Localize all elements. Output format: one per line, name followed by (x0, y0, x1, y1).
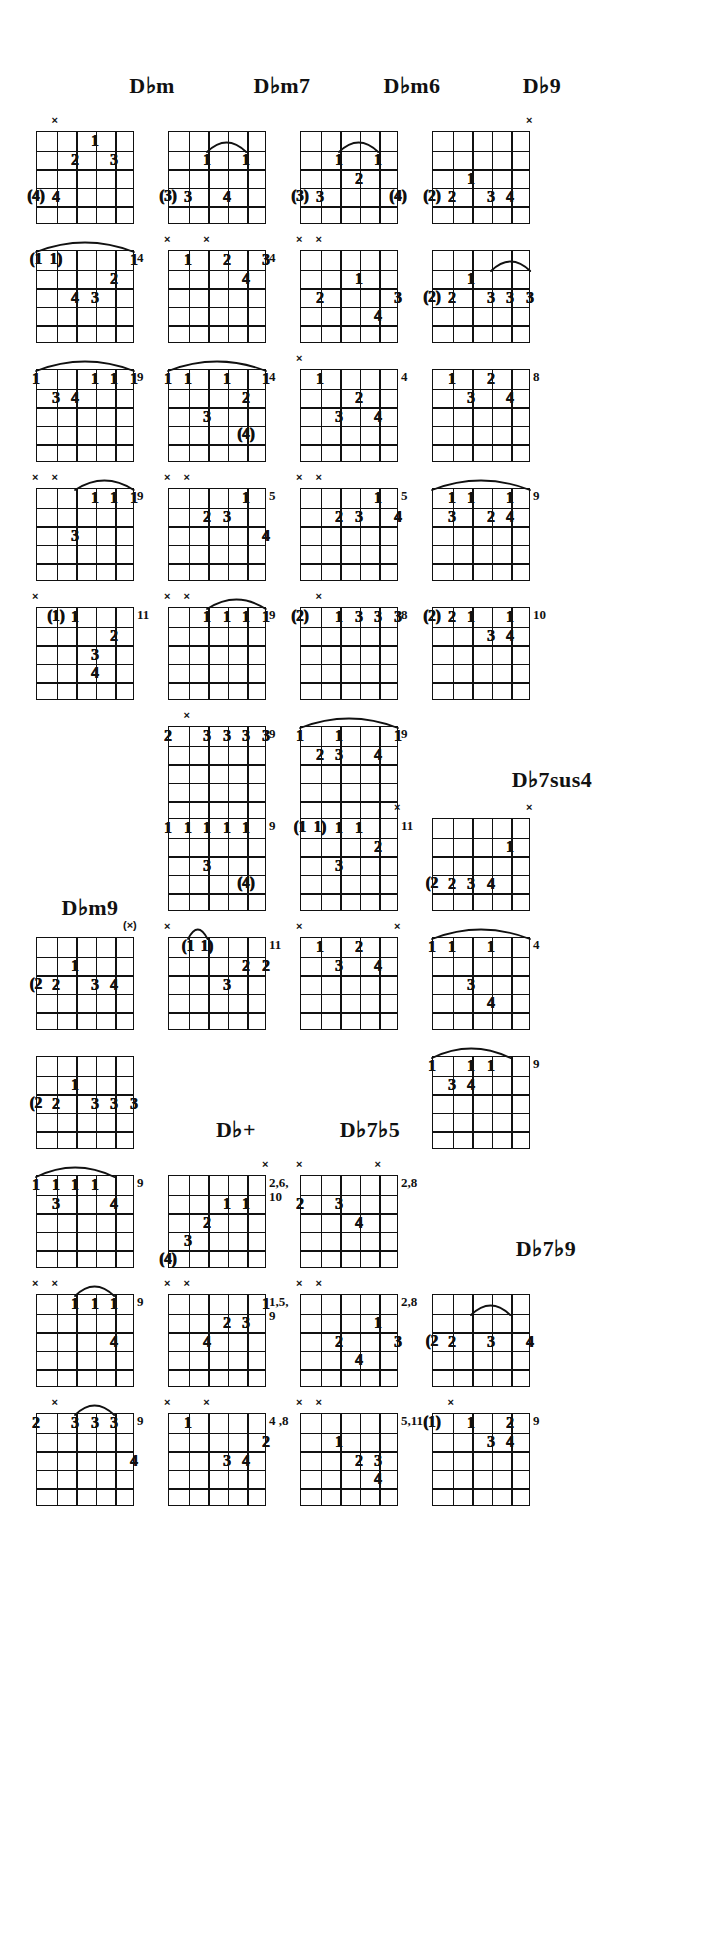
fret-line (169, 325, 265, 327)
string-line (321, 1295, 323, 1386)
string-line (360, 1295, 362, 1386)
finger-number: 4 (52, 188, 60, 205)
string-line (57, 1414, 59, 1505)
chord-diagram: ×11(11)1123 (300, 800, 438, 915)
fretboard-grid (300, 131, 398, 224)
chord-diagram: ××2,8234 (300, 1157, 438, 1272)
chord-diagram: 4111123(4) (168, 351, 306, 466)
finger-number: 1 (506, 837, 514, 854)
string-line (511, 132, 513, 223)
muted-string-marker: × (203, 1397, 209, 1408)
string-line (189, 132, 191, 223)
finger-number: 1 (506, 489, 514, 506)
fret-line (301, 1351, 397, 1353)
string-line (189, 1295, 191, 1386)
string-line (340, 489, 342, 580)
fret-line (37, 1113, 133, 1115)
muted-string-marker: × (316, 472, 322, 483)
finger-number: 3 (71, 1414, 79, 1431)
fret-line (37, 1314, 133, 1316)
fret-position-label: 9 (269, 608, 276, 621)
muted-string-marker: × (184, 1278, 190, 1289)
string-line (321, 132, 323, 223)
fret-line (37, 270, 133, 272)
finger-number: 3 (91, 1414, 99, 1431)
fret-line (433, 1094, 529, 1096)
finger-number: 3 (110, 1094, 118, 1111)
finger-number: 4 (506, 507, 514, 524)
finger-number: 1 (487, 1057, 495, 1074)
finger-number: 1 (130, 370, 138, 387)
finger-number: 1 (467, 489, 475, 506)
finger-number: 1 (428, 938, 436, 955)
fretboard-grid (432, 1413, 530, 1506)
fret-line (37, 664, 133, 666)
finger-number: 1 (130, 251, 138, 268)
chord-diagram: 1(2)2333 (432, 232, 570, 347)
fret-position-label: 10 (533, 608, 546, 621)
finger-number: 2 (223, 251, 231, 268)
muted-string-marker: × (164, 472, 170, 483)
fret-line (433, 1488, 529, 1490)
finger-number: 1 (316, 370, 324, 387)
finger-number: (4) (159, 1251, 176, 1267)
fretboard-grid (36, 1413, 134, 1506)
string-line (492, 132, 494, 223)
fret-line (37, 1131, 133, 1133)
finger-number: 2 (242, 388, 250, 405)
fret-line (433, 1314, 529, 1316)
finger-number: 3 (71, 526, 79, 543)
finger-number: 1 (223, 370, 231, 387)
fret-line (433, 1351, 529, 1353)
finger-number: 3 (355, 507, 363, 524)
finger-number: 2 (52, 1094, 60, 1111)
fret-line (433, 1113, 529, 1115)
fret-line (433, 151, 529, 153)
fret-line (301, 444, 397, 446)
finger-number: 1 (374, 489, 382, 506)
finger-number: 1 (355, 819, 363, 836)
string-line (321, 608, 323, 699)
chord-name-heading: D♭m6 (352, 73, 472, 99)
fretboard-grid (36, 131, 134, 224)
fret-position-label: 5 (269, 489, 276, 502)
fretboard-grid (168, 1413, 266, 1506)
string-line (379, 1295, 381, 1386)
fret-line (37, 307, 133, 309)
finger-number: 1 (203, 819, 211, 836)
fretboard-grid (168, 488, 266, 581)
fret-line (433, 407, 529, 409)
finger-number: 3 (526, 288, 534, 305)
string-line (247, 1176, 249, 1267)
finger-number: 3 (374, 1451, 382, 1468)
finger-number: 1 (242, 608, 250, 625)
finger-number: 2 (448, 188, 456, 205)
finger-number: 3 (394, 608, 402, 625)
fret-position-label: 5,11 (401, 1414, 423, 1427)
finger-number: 2 (374, 837, 382, 854)
fret-line (301, 307, 397, 309)
finger-number: 1 (91, 1176, 99, 1193)
muted-string-marker: × (184, 472, 190, 483)
muted-string-marker: × (32, 1278, 38, 1289)
fret-line (169, 545, 265, 547)
fretboard-grid (432, 131, 530, 224)
chord-diagram: 81234 (432, 351, 570, 466)
fret-line (301, 1250, 397, 1252)
string-line (472, 819, 474, 910)
fretboard-grid (300, 937, 398, 1030)
fret-line (433, 389, 529, 391)
chord-diagram: ×2,6, 101123(4) (168, 1157, 306, 1272)
string-line (189, 1176, 191, 1267)
string-line (57, 132, 59, 223)
muted-string-marker: × (32, 472, 38, 483)
finger-number: (3) (159, 188, 176, 204)
muted-string-marker: × (316, 1278, 322, 1289)
finger-number: 1 (91, 370, 99, 387)
finger-number: 1 (467, 1057, 475, 1074)
string-line (228, 1176, 230, 1267)
fret-line (433, 1369, 529, 1371)
fret-line (169, 1195, 265, 1197)
finger-number: (2 (30, 1095, 42, 1111)
string-line (228, 489, 230, 580)
